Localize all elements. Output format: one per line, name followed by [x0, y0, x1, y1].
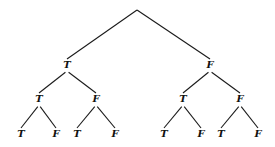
tree-node-label: F [253, 128, 262, 139]
tree-edge [40, 107, 56, 128]
tree-node-label: T [73, 128, 82, 139]
tree-edge [21, 107, 38, 128]
truth-tree-diagram: TFTFTFTFTFTFTF [0, 0, 275, 147]
tree-edge [67, 10, 137, 59]
tree-edge [39, 72, 65, 93]
tree-edge [69, 72, 96, 93]
tree-edge [241, 107, 258, 128]
tree-edge [97, 107, 115, 128]
tree-node-label: F [196, 128, 205, 139]
tree-edges [21, 10, 258, 128]
tree-edge [184, 107, 201, 128]
tree-node-labels: TFTFTFTFTFTFTF [17, 59, 262, 139]
tree-edge [77, 107, 95, 128]
tree-edge [164, 107, 182, 128]
tree-node-label: F [91, 93, 100, 104]
tree-node-label: T [179, 93, 188, 104]
tree-node-label: F [110, 128, 119, 139]
tree-edge [212, 72, 240, 93]
tree-node-label: F [51, 128, 60, 139]
tree-node-label: T [35, 93, 44, 104]
tree-edge [183, 72, 208, 93]
tree-node-label: T [160, 128, 169, 139]
tree-node-label: F [235, 93, 244, 104]
tree-edge [137, 10, 210, 59]
tree-edge [221, 107, 239, 128]
tree-node-label: F [205, 59, 214, 70]
tree-node-label: T [217, 128, 226, 139]
tree-node-label: T [63, 59, 72, 70]
tree-node-label: T [17, 128, 26, 139]
